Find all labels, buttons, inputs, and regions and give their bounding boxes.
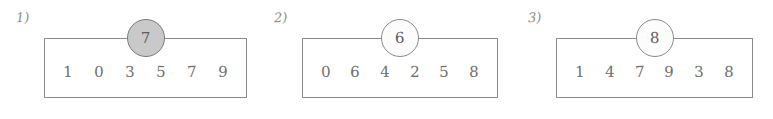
group-index-label: 3) bbox=[528, 11, 542, 25]
array-cell: 8 bbox=[465, 65, 483, 80]
array-cell: 2 bbox=[406, 65, 424, 80]
array-cell: 4 bbox=[601, 65, 619, 80]
array-cell-row: 1 0 3 5 7 9 bbox=[45, 65, 246, 80]
pointer-value-label: 6 bbox=[395, 30, 405, 45]
group-index-label: 2) bbox=[274, 11, 288, 25]
array-cell: 0 bbox=[317, 65, 335, 80]
array-cell: 9 bbox=[213, 65, 231, 80]
array-cell: 5 bbox=[435, 65, 453, 80]
array-cell: 4 bbox=[376, 65, 394, 80]
array-cell: 5 bbox=[152, 65, 170, 80]
array-cell: 9 bbox=[660, 65, 678, 80]
problem-group-2: 2) 0 6 4 2 5 8 6 bbox=[258, 0, 516, 119]
array-cell-row: 0 6 4 2 5 8 bbox=[303, 65, 497, 80]
pointer-value-label: 7 bbox=[141, 30, 151, 45]
circle-marker-icon: 7 bbox=[127, 19, 165, 57]
group-index-label: 1) bbox=[16, 11, 30, 25]
circle-marker-icon: 6 bbox=[381, 19, 419, 57]
array-cell: 3 bbox=[690, 65, 708, 80]
array-cell: 6 bbox=[346, 65, 364, 80]
array-cell: 7 bbox=[630, 65, 648, 80]
problem-group-3: 3) 1 4 7 9 3 8 8 bbox=[512, 0, 773, 119]
array-cell: 1 bbox=[571, 65, 589, 80]
array-cell: 0 bbox=[90, 65, 108, 80]
pointer-value-label: 8 bbox=[650, 30, 660, 45]
array-cell: 8 bbox=[720, 65, 738, 80]
array-cell: 3 bbox=[121, 65, 139, 80]
problem-group-1: 1) 1 0 3 5 7 9 7 bbox=[0, 0, 260, 119]
array-cell: 1 bbox=[59, 65, 77, 80]
array-cell: 7 bbox=[183, 65, 201, 80]
array-cell-row: 1 4 7 9 3 8 bbox=[557, 65, 752, 80]
circle-marker-icon: 8 bbox=[636, 19, 674, 57]
sketch-canvas: 1) 1 0 3 5 7 9 7 2) 0 6 4 2 5 8 bbox=[0, 0, 773, 119]
